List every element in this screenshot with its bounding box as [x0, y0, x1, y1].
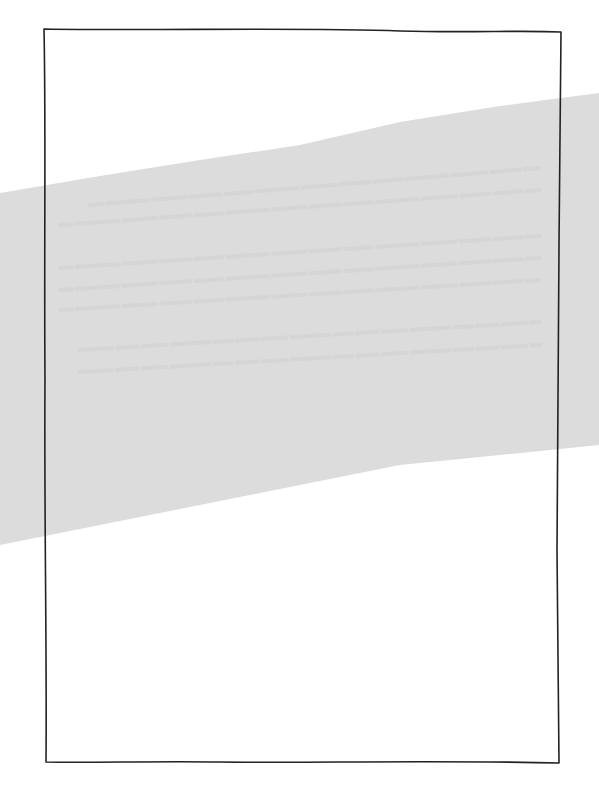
ghost-word — [311, 271, 340, 273]
ghost-word — [525, 168, 540, 169]
ghost-word — [311, 293, 340, 295]
ghost-word — [461, 194, 490, 196]
ghost-word — [461, 261, 490, 263]
ghost-word — [263, 360, 286, 361]
ghost-word — [503, 323, 526, 324]
ghost-word — [195, 279, 222, 281]
ghost-word — [80, 348, 112, 350]
ghost-word — [191, 194, 220, 196]
ghost-word — [123, 304, 156, 306]
ghost-word — [123, 284, 156, 286]
ghost-word — [453, 172, 486, 175]
ghost-word — [311, 249, 340, 251]
ghost-word — [341, 182, 370, 184]
ghost-word — [377, 244, 418, 247]
ghost-word — [161, 259, 190, 261]
ghost-word — [491, 170, 520, 172]
ghost-word — [455, 349, 472, 350]
ghost-word — [225, 192, 252, 194]
ghost-word — [171, 342, 210, 344]
ghost-word — [171, 364, 210, 366]
ghost-word — [291, 357, 330, 359]
ghost-word — [77, 286, 118, 289]
ghost-word — [503, 346, 526, 347]
ghost-word — [477, 347, 498, 348]
ghost-word — [161, 302, 190, 304]
ghost-word — [161, 216, 190, 218]
ghost-word — [215, 363, 232, 364]
ghost-word — [461, 239, 490, 241]
ghost-word — [461, 283, 490, 285]
ghost-word — [477, 325, 498, 326]
ghost-word — [195, 257, 222, 259]
ghost-word — [423, 264, 456, 266]
ghost-word — [227, 297, 268, 300]
page-canvas — [0, 0, 599, 799]
ghost-word — [195, 300, 222, 302]
ghost-word — [345, 247, 372, 249]
ghost-word — [335, 333, 352, 334]
ghost-word — [273, 252, 306, 254]
ghost-word — [60, 289, 72, 290]
ghost-word — [423, 242, 456, 244]
ghost-word — [423, 196, 456, 198]
ghost-word — [375, 179, 402, 181]
ghost-word — [377, 266, 418, 269]
ghost-word — [263, 337, 286, 338]
ghost-word — [90, 204, 102, 205]
ghost-word — [273, 274, 306, 276]
ghost-word — [527, 236, 540, 237]
ghost-word — [60, 267, 72, 268]
ghost-word — [123, 218, 156, 220]
ghost-word — [291, 335, 330, 337]
ghost-word — [357, 355, 378, 356]
ghost-word — [345, 291, 372, 293]
ghost-word — [80, 370, 112, 372]
ghost-word — [527, 258, 540, 259]
ghost-word — [195, 213, 222, 215]
ghost-word — [455, 326, 472, 327]
ghost-word — [335, 356, 352, 357]
ghost-word — [383, 330, 406, 331]
ghost-word — [237, 362, 258, 363]
ghost-word — [345, 202, 372, 204]
ghost-word — [123, 262, 156, 264]
ghost-word — [345, 269, 372, 271]
ghost-word — [215, 341, 232, 342]
ghost-word — [495, 259, 522, 261]
ghost-word — [303, 185, 336, 188]
ghost-word — [117, 346, 138, 347]
ghost-word — [143, 345, 166, 346]
ghost-word — [527, 190, 540, 191]
ghost-word — [411, 327, 450, 329]
ghost-word — [161, 281, 190, 283]
ghost-word — [495, 191, 522, 193]
ghost-word — [383, 353, 406, 354]
ghost-word — [411, 350, 450, 352]
ghost-word — [77, 264, 118, 267]
ghost-word — [311, 205, 340, 207]
ghost-word — [531, 345, 540, 346]
ghost-word — [237, 339, 258, 340]
ghost-word — [60, 309, 72, 310]
ghost-word — [273, 295, 306, 297]
ghost-word — [357, 332, 378, 333]
ghost-word — [143, 367, 166, 368]
ghost-word — [423, 285, 456, 287]
ghost-word — [117, 369, 138, 370]
ghost-word — [60, 224, 72, 225]
gray-diagonal-band — [0, 93, 599, 545]
ghost-word — [527, 280, 540, 281]
ghost-word — [377, 288, 418, 291]
ghost-word — [153, 197, 186, 200]
ghost-word — [227, 254, 268, 257]
ghost-word — [273, 207, 306, 209]
ghost-word — [495, 237, 522, 239]
ghost-word — [77, 306, 118, 309]
ghost-word — [227, 276, 268, 279]
sketch-artwork — [0, 0, 599, 799]
ghost-word — [495, 281, 522, 283]
ghost-word — [531, 322, 540, 323]
